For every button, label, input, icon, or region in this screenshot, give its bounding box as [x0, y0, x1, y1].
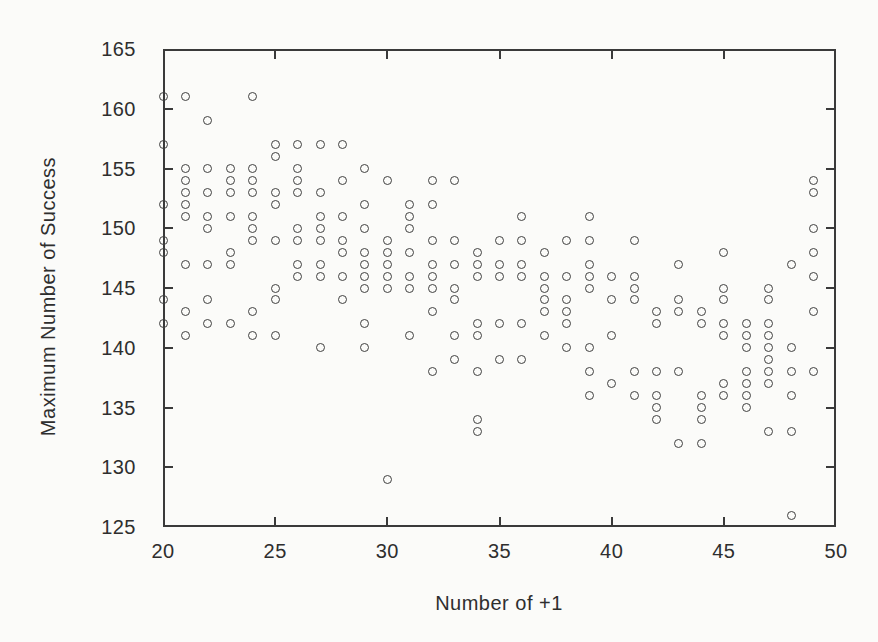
data-point	[181, 200, 190, 209]
data-point	[181, 176, 190, 185]
data-point	[809, 272, 818, 281]
tick-mark	[165, 227, 173, 229]
data-point	[316, 224, 325, 233]
data-point	[450, 260, 459, 269]
data-point	[181, 188, 190, 197]
y-tick-label: 135	[74, 398, 136, 418]
y-tick-label: 140	[74, 338, 136, 358]
data-point	[226, 188, 235, 197]
data-point	[742, 379, 751, 388]
data-point	[428, 260, 437, 269]
data-point	[495, 236, 504, 245]
data-point	[159, 295, 168, 304]
data-point	[540, 284, 549, 293]
tick-mark	[386, 51, 388, 59]
tick-mark	[274, 51, 276, 59]
tick-mark	[826, 227, 834, 229]
data-point	[809, 176, 818, 185]
tick-mark	[165, 466, 173, 468]
data-point	[293, 260, 302, 269]
data-point	[383, 248, 392, 257]
data-point	[405, 272, 414, 281]
data-point	[809, 248, 818, 257]
data-point	[248, 212, 257, 221]
x-tick-label: 45	[694, 541, 754, 561]
data-point	[585, 236, 594, 245]
data-point	[360, 248, 369, 257]
data-point	[742, 343, 751, 352]
data-point	[495, 260, 504, 269]
tick-mark	[611, 517, 613, 525]
data-point	[316, 343, 325, 352]
data-point	[450, 176, 459, 185]
data-point	[473, 415, 482, 424]
x-tick-label: 40	[582, 541, 642, 561]
data-point	[248, 236, 257, 245]
data-point	[630, 391, 639, 400]
data-point	[809, 224, 818, 233]
data-point	[517, 260, 526, 269]
data-point	[271, 200, 280, 209]
data-point	[473, 319, 482, 328]
data-point	[271, 140, 280, 149]
x-axis-label: Number of +1	[399, 592, 599, 615]
data-point	[159, 92, 168, 101]
x-tick-label: 35	[470, 541, 530, 561]
tick-mark	[826, 466, 834, 468]
data-point	[585, 260, 594, 269]
tick-mark	[165, 168, 173, 170]
data-point	[473, 260, 482, 269]
data-point	[428, 367, 437, 376]
data-point	[271, 331, 280, 340]
scatter-plot-figure: Maximum Number of Success Number of +1 1…	[0, 0, 878, 642]
y-axis-label: Maximum Number of Success	[37, 97, 60, 497]
data-point	[271, 188, 280, 197]
data-point	[383, 176, 392, 185]
x-tick-label: 50	[806, 541, 866, 561]
data-point	[585, 284, 594, 293]
data-point	[652, 415, 661, 424]
tick-mark	[826, 108, 834, 110]
data-point	[316, 236, 325, 245]
data-point	[630, 272, 639, 281]
tick-mark	[826, 407, 834, 409]
data-point	[181, 164, 190, 173]
data-point	[405, 284, 414, 293]
x-tick-label: 20	[133, 541, 193, 561]
y-tick-label: 150	[74, 218, 136, 238]
data-point	[159, 200, 168, 209]
tick-mark	[826, 168, 834, 170]
data-point	[473, 248, 482, 257]
data-point	[697, 415, 706, 424]
data-point	[203, 260, 212, 269]
data-point	[473, 367, 482, 376]
data-point	[630, 367, 639, 376]
data-point	[742, 391, 751, 400]
data-point	[630, 284, 639, 293]
data-point	[787, 391, 796, 400]
data-point	[473, 272, 482, 281]
data-point	[293, 224, 302, 233]
data-point	[405, 248, 414, 257]
data-point	[697, 391, 706, 400]
data-point	[630, 236, 639, 245]
data-point	[383, 260, 392, 269]
data-point	[607, 272, 616, 281]
plot-area	[163, 49, 836, 527]
data-point	[360, 272, 369, 281]
data-point	[181, 212, 190, 221]
data-point	[787, 367, 796, 376]
data-point	[360, 260, 369, 269]
x-tick-label: 30	[357, 541, 417, 561]
data-point	[360, 284, 369, 293]
data-point	[383, 272, 392, 281]
data-point	[585, 343, 594, 352]
data-point	[226, 176, 235, 185]
data-point	[338, 140, 347, 149]
data-point	[585, 212, 594, 221]
data-point	[719, 284, 728, 293]
data-point	[338, 212, 347, 221]
data-point	[271, 236, 280, 245]
y-tick-label: 145	[74, 278, 136, 298]
data-point	[719, 248, 728, 257]
